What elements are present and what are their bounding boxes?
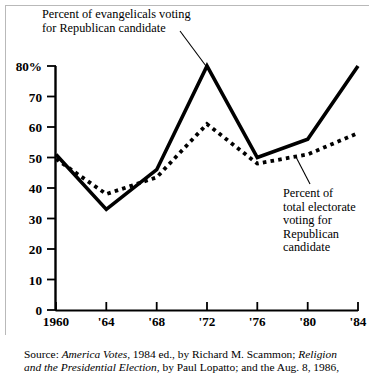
- source-rest: , by Paul Lopatto; and the Aug. 8, 1986,: [157, 361, 339, 373]
- y-tick-label-60: 60: [2, 120, 42, 136]
- source-prefix: Source:: [24, 348, 62, 360]
- annotation-evangelicals: Percent of evangelicals voting for Repub…: [42, 8, 242, 35]
- y-tick-label-30: 30: [2, 212, 42, 228]
- x-tick-label-1960: 1960: [33, 314, 79, 330]
- annotation-total-electorate: Percent of total electorate voting for R…: [283, 187, 369, 255]
- y-tick-label-20: 20: [2, 242, 42, 258]
- source-note: Source: America Votes, 1984 ed., by Rich…: [24, 348, 364, 375]
- source-title-2: Religion: [298, 348, 337, 360]
- y-tick-label-50: 50: [2, 151, 42, 167]
- y-tick-label-10: 10: [2, 273, 42, 289]
- source-note-line-2: and the Presidential Election, by Paul L…: [24, 361, 364, 374]
- x-tick-label-72: '72: [184, 314, 230, 330]
- x-tick-label-76: '76: [234, 314, 280, 330]
- y-tick-label-40: 40: [2, 181, 42, 197]
- source-title-3: and the Presidential Election: [24, 361, 157, 373]
- x-tick-label-84: '84: [335, 314, 371, 330]
- leader-line-electorate: [296, 157, 310, 184]
- x-tick-label-80: '80: [285, 314, 331, 330]
- y-tick-label-80: 80%: [2, 59, 42, 75]
- x-tick-label-68: '68: [134, 314, 180, 330]
- leader-line-evangelicals: [180, 31, 206, 66]
- source-mid: , 1984 ed., by Richard M. Scammon;: [127, 348, 298, 360]
- source-title-1: America Votes: [62, 348, 127, 360]
- y-tick-label-70: 70: [2, 90, 42, 106]
- source-note-line-1: Source: America Votes, 1984 ed., by Rich…: [24, 348, 364, 361]
- x-tick-label-64: '64: [83, 314, 129, 330]
